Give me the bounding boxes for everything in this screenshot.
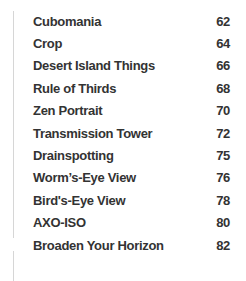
toc-entry-title: Bird's-Eye View xyxy=(33,193,125,208)
toc-entry-title: AXO-ISO xyxy=(33,215,86,230)
toc-entry-title: Cubomania xyxy=(33,14,101,29)
toc-entry-page: 75 xyxy=(216,148,230,163)
toc-entry-page: 68 xyxy=(216,81,230,96)
toc-entry-page: 62 xyxy=(216,14,230,29)
toc-entry-page: 70 xyxy=(216,103,230,118)
toc-entry-page: 80 xyxy=(216,215,230,230)
toc-entry[interactable]: Bird's-Eye View78 xyxy=(0,189,246,211)
toc-entry-title: Broaden Your Horizon xyxy=(33,238,164,253)
toc-entry[interactable]: Desert Island Things66 xyxy=(0,55,246,77)
toc-entry-page: 64 xyxy=(216,36,230,51)
toc-list: Cubomania62Crop64Desert Island Things66R… xyxy=(0,10,246,256)
toc-entry[interactable]: Crop64 xyxy=(0,32,246,54)
toc-entry-title: Transmission Tower xyxy=(33,126,152,141)
toc-entry[interactable]: AXO-ISO80 xyxy=(0,212,246,234)
toc-entry-page: 76 xyxy=(216,170,230,185)
toc-entry-page: 66 xyxy=(216,58,230,73)
toc-entry-page: 82 xyxy=(216,238,230,253)
toc-entry[interactable]: Transmission Tower72 xyxy=(0,122,246,144)
toc-entry[interactable]: Zen Portrait70 xyxy=(0,100,246,122)
toc-entry-title: Desert Island Things xyxy=(33,58,155,73)
toc-entry[interactable]: Drainspotting75 xyxy=(0,144,246,166)
toc-entry[interactable]: Cubomania62 xyxy=(0,10,246,32)
toc-entry-title: Crop xyxy=(33,36,62,51)
toc-entry-title: Worm’s-Eye View xyxy=(33,170,136,185)
toc-entry[interactable]: Worm’s-Eye View76 xyxy=(0,167,246,189)
toc-entry-page: 72 xyxy=(216,126,230,141)
toc-entry-title: Rule of Thirds xyxy=(33,81,116,96)
toc-entry[interactable]: Broaden Your Horizon82 xyxy=(0,234,246,256)
toc-entry-title: Drainspotting xyxy=(33,148,114,163)
toc-entry-page: 78 xyxy=(216,193,230,208)
toc-entry-title: Zen Portrait xyxy=(33,103,102,118)
toc-entry[interactable]: Rule of Thirds68 xyxy=(0,77,246,99)
